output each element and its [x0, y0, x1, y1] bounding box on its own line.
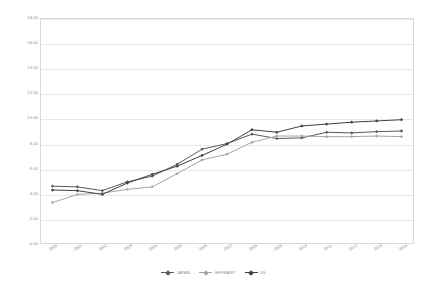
data-point-marker	[300, 124, 303, 127]
data-point-marker	[76, 193, 79, 196]
data-point-marker	[200, 154, 203, 157]
legend-item-japan[interactable]: JAPAN	[161, 270, 190, 275]
data-point-marker	[51, 188, 54, 191]
legend-item-us[interactable]: US	[245, 270, 266, 275]
chart-series-layer	[40, 18, 414, 244]
data-point-marker	[250, 133, 253, 136]
legend-label: JAPAN	[176, 270, 190, 275]
series-japan	[51, 129, 403, 192]
data-point-marker	[375, 130, 378, 133]
x-axis-tick-label: 2002	[98, 244, 108, 252]
y-axis-tick-label: 10.00	[0, 116, 38, 120]
series-line	[52, 136, 401, 203]
data-point-marker	[76, 189, 79, 192]
data-point-marker	[400, 129, 403, 132]
x-axis-tick-label: 2003	[123, 244, 133, 252]
x-axis-tick-label: 2014	[398, 244, 408, 252]
x-axis-tick-label: 2004	[148, 244, 158, 252]
data-point-marker	[350, 121, 353, 124]
data-point-marker	[325, 131, 328, 134]
y-axis-tick-label: 14.00	[0, 66, 38, 70]
series-line	[52, 120, 401, 195]
legend-item-germany[interactable]: GERMANY	[199, 270, 236, 275]
legend-label: US	[260, 270, 266, 275]
data-point-marker	[375, 119, 378, 122]
data-point-marker	[325, 122, 328, 125]
x-axis-tick-label: 2009	[273, 244, 283, 252]
data-point-marker	[76, 185, 79, 188]
x-axis-tick-label: 2010	[298, 244, 308, 252]
x-axis-tick-label: 2005	[173, 244, 183, 252]
y-axis-tick-label: 16.00	[0, 41, 38, 45]
data-point-marker	[350, 135, 353, 138]
data-point-marker	[126, 188, 129, 191]
data-point-marker	[225, 153, 228, 156]
x-axis-tick-label: 2007	[223, 244, 233, 252]
line-chart-figure: 0.002.004.006.008.0010.0012.0014.0016.00…	[0, 0, 427, 293]
legend-label: GERMANY	[214, 270, 236, 275]
data-point-marker	[275, 134, 278, 137]
data-point-marker	[325, 135, 328, 138]
x-axis-tick-label: 2001	[73, 244, 83, 252]
y-axis-tick-label: 8.00	[0, 142, 38, 146]
x-axis: 2000200120022003200420052006200720082009…	[40, 246, 414, 268]
data-point-marker	[375, 134, 378, 137]
data-point-marker	[400, 135, 403, 138]
y-axis: 0.002.004.006.008.0010.0012.0014.0016.00…	[0, 18, 38, 244]
data-point-marker	[400, 118, 403, 121]
legend-swatch-icon	[161, 270, 174, 275]
x-axis-tick-label: 2013	[373, 244, 383, 252]
y-axis-tick-label: 18.00	[0, 16, 38, 20]
data-point-marker	[275, 131, 278, 134]
data-point-marker	[51, 201, 54, 204]
x-axis-tick-label: 2008	[248, 244, 258, 252]
x-axis-tick-label: 2000	[48, 244, 58, 252]
series-line	[52, 131, 401, 191]
y-axis-tick-label: 0.00	[0, 242, 38, 246]
chart-legend: JAPANGERMANYUS	[0, 270, 427, 275]
data-point-marker	[250, 141, 253, 144]
legend-swatch-icon	[245, 270, 258, 275]
x-axis-tick-label: 2011	[323, 244, 333, 252]
legend-swatch-icon	[199, 270, 212, 275]
y-axis-tick-label: 6.00	[0, 167, 38, 171]
x-axis-tick-label: 2012	[348, 244, 358, 252]
series-us	[51, 118, 403, 196]
y-axis-tick-label: 4.00	[0, 192, 38, 196]
y-axis-tick-label: 2.00	[0, 217, 38, 221]
x-axis-tick-label: 2006	[198, 244, 208, 252]
data-point-marker	[350, 131, 353, 134]
y-axis-tick-label: 12.00	[0, 91, 38, 95]
data-point-marker	[51, 185, 54, 188]
